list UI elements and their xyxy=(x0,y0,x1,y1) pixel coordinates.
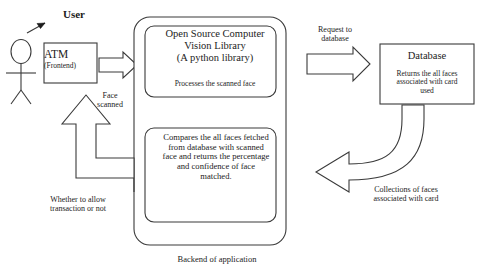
face-scanned-arrow xyxy=(99,52,137,78)
request-to-database-arrow xyxy=(307,47,370,81)
opencv-box-title: Open Source Computer Vision Library (A p… xyxy=(150,28,280,63)
diagram-canvas: User ATM (Frontend) Face scanned Whether… xyxy=(0,0,482,275)
stick-figure-icon xyxy=(6,40,36,105)
compare-box-body: Compares the all faces fetched from data… xyxy=(148,133,284,181)
database-subtitle: Returns the all faces associated with ca… xyxy=(381,70,473,95)
user-pointer-arrow xyxy=(27,23,45,33)
request-to-database-label: Request to database xyxy=(303,26,367,44)
user-label: User xyxy=(48,8,100,20)
opencv-box-subtitle: Processes the scanned face xyxy=(150,80,280,88)
collections-of-faces-label: Collections of faces associated with car… xyxy=(356,186,456,204)
collections-of-faces-arrow xyxy=(316,105,424,192)
face-scanned-label: Face scanned xyxy=(82,92,138,110)
atm-title: ATM xyxy=(44,48,96,61)
whether-allow-label: Whether to allow transaction or not xyxy=(30,196,126,214)
database-title: Database xyxy=(381,50,473,62)
atm-subtitle: (Frontend) xyxy=(44,62,96,70)
backend-caption: Backend of application xyxy=(152,255,282,265)
